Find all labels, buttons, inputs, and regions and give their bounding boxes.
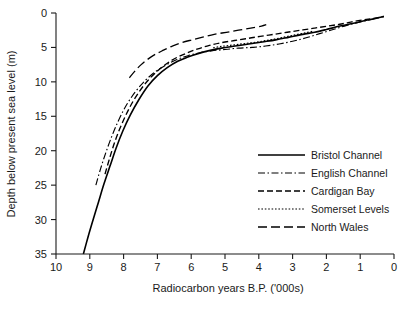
x-tick-label: 2 bbox=[323, 261, 329, 273]
legend-label-bristol-channel: Bristol Channel bbox=[311, 149, 382, 161]
x-tick-label: 7 bbox=[154, 261, 160, 273]
y-tick-label: 25 bbox=[35, 179, 47, 191]
y-axis-ticks: 05101520253035 bbox=[35, 7, 56, 260]
x-tick-label: 8 bbox=[121, 261, 127, 273]
plot-area bbox=[83, 16, 383, 254]
x-tick-label: 4 bbox=[256, 261, 262, 273]
x-tick-label: 3 bbox=[290, 261, 296, 273]
chart-legend: Bristol ChannelEnglish ChannelCardigan B… bbox=[258, 149, 389, 233]
x-tick-label: 1 bbox=[357, 261, 363, 273]
x-axis-title: Radiocarbon years B.P. ('000s) bbox=[152, 282, 303, 294]
y-tick-label: 30 bbox=[35, 214, 47, 226]
x-tick-label: 5 bbox=[222, 261, 228, 273]
y-tick-label: 35 bbox=[35, 248, 47, 260]
chart-canvas: 05101520253035 109876543210 Depth below … bbox=[0, 0, 413, 314]
series-line-north-wales bbox=[129, 25, 266, 78]
x-tick-label: 10 bbox=[50, 261, 62, 273]
y-tick-label: 0 bbox=[41, 7, 47, 19]
x-axis-ticks: 109876543210 bbox=[50, 254, 397, 273]
legend-label-english-channel: English Channel bbox=[311, 167, 387, 179]
x-tick-label: 6 bbox=[188, 261, 194, 273]
series-line-somerset-levels bbox=[213, 31, 313, 48]
sea-level-curve-chart: 05101520253035 109876543210 Depth below … bbox=[0, 0, 413, 314]
y-tick-label: 10 bbox=[35, 76, 47, 88]
legend-label-north-wales: North Wales bbox=[311, 221, 368, 233]
x-tick-label: 0 bbox=[391, 261, 397, 273]
legend-label-cardigan-bay: Cardigan Bay bbox=[311, 185, 375, 197]
series-line-bristol-channel bbox=[83, 16, 383, 254]
y-tick-label: 5 bbox=[41, 41, 47, 53]
y-tick-label: 20 bbox=[35, 145, 47, 157]
x-tick-label: 9 bbox=[87, 261, 93, 273]
legend-label-somerset-levels: Somerset Levels bbox=[311, 203, 389, 215]
y-axis-title: Depth below present sea level (m) bbox=[5, 51, 17, 218]
series-layer bbox=[83, 16, 383, 254]
y-tick-label: 15 bbox=[35, 110, 47, 122]
